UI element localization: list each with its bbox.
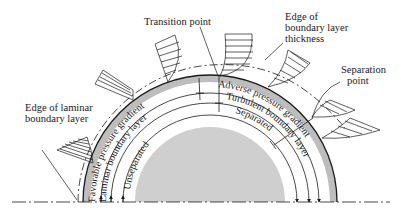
laminar-edge-label-1: Edge of laminar bbox=[25, 102, 93, 113]
edge-bl-label-2: boundary layer bbox=[285, 22, 349, 33]
separation-label-1: Separation bbox=[341, 64, 387, 75]
laminar-edge-label-2: boundary layer bbox=[25, 113, 89, 124]
velocity-profile-7 bbox=[322, 118, 380, 138]
velocity-profile-4 bbox=[220, 34, 253, 76]
velocity-profile-1 bbox=[57, 137, 93, 163]
boundary-layer-diagram: Transition point Edge of boundary layer … bbox=[0, 0, 401, 214]
velocity-profile-2 bbox=[95, 70, 133, 100]
separation-label-2: point bbox=[347, 75, 369, 86]
transition-point-label: Transition point bbox=[144, 16, 211, 27]
velocity-profile-5 bbox=[268, 50, 310, 87]
cylinder-body bbox=[135, 127, 285, 202]
edge-bl-label-3: thickness bbox=[285, 33, 324, 44]
edge-bl-label-1: Edge of bbox=[285, 11, 318, 22]
